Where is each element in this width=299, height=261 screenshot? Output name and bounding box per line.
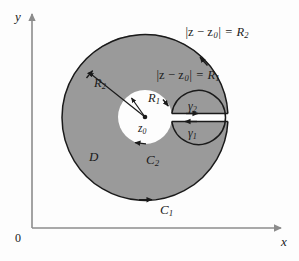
inner-eq-part1: |z − z xyxy=(156,68,185,82)
slit-lower-sub: 1 xyxy=(193,132,197,141)
inner-radius-label: R1 xyxy=(148,92,160,106)
center-point-label: z0 xyxy=(138,123,146,136)
y-axis-label: y xyxy=(15,10,21,23)
inner-radius-sub: 1 xyxy=(156,96,160,106)
region-d-shape xyxy=(0,0,299,261)
inner-eq-radius-sub: 1 xyxy=(215,73,219,83)
outer-curve-sub: 1 xyxy=(169,208,173,218)
center-point-sub: 0 xyxy=(142,127,146,136)
region-label: D xyxy=(89,150,98,163)
inner-curve-letter: C xyxy=(146,152,155,167)
outer-curve-label: C1 xyxy=(160,203,173,218)
outer-radius-letter: R xyxy=(94,76,102,90)
inner-circle-equation-label: |z − z0| = R1 xyxy=(156,69,219,83)
inner-eq-part2: | = R xyxy=(189,68,215,82)
origin-label: 0 xyxy=(15,232,21,244)
outer-eq-part1: |z − z xyxy=(185,25,214,39)
diagram-svg xyxy=(0,0,299,261)
slit-lower-label: γ1 xyxy=(188,127,197,141)
x-axis-label: x xyxy=(281,235,287,248)
inner-radius-letter: R xyxy=(148,91,156,105)
slit-upper-label: γ2 xyxy=(188,100,197,114)
outer-curve-letter: C xyxy=(160,202,169,217)
center-point-dot xyxy=(143,115,148,120)
outer-radius-sub: 2 xyxy=(102,81,106,91)
outer-circle-equation-label: |z − z0| = R2 xyxy=(185,26,248,40)
inner-curve-sub: 2 xyxy=(155,158,159,168)
outer-eq-radius-sub: 2 xyxy=(244,30,248,40)
outer-radius-label: R2 xyxy=(94,77,106,91)
figure-canvas: y x 0 |z − z0| = R2 |z − z0| = R1 R2 R1 … xyxy=(0,0,299,261)
slit-upper-sub: 2 xyxy=(193,105,197,114)
outer-eq-part2: | = R xyxy=(218,25,244,39)
inner-curve-label: C2 xyxy=(146,153,159,168)
